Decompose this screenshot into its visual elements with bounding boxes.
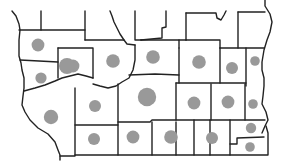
border [186,11,226,20]
border [230,137,264,144]
west-boundary [12,11,60,160]
symbol-r9 [250,56,260,66]
symbol-r14 [222,96,235,109]
symbol-r2 [35,72,46,83]
symbol-r10 [44,110,58,124]
border [110,11,124,40]
border [186,40,220,48]
symbol-r20 [246,123,256,133]
symbol-r21 [245,142,255,152]
border [141,11,166,40]
east-boundary [262,0,272,133]
symbol-r7 [59,58,75,74]
border [85,40,135,45]
symbol-r11 [89,100,101,112]
symbol-r19 [206,132,218,144]
symbol-r16 [88,133,100,145]
symbol-r12 [138,88,156,106]
symbol-r4 [106,54,120,68]
symbol-r8 [226,62,238,74]
symbol-r5 [146,50,160,64]
symbol-r17 [127,131,140,144]
border [129,74,179,75]
symbol-r13 [188,97,201,110]
symbol-r1 [32,39,45,52]
symbol-r18 [164,130,178,144]
county-map [0,0,283,163]
symbol-r15 [248,99,258,109]
border [141,40,179,48]
county-borders [12,0,272,160]
border [20,60,58,62]
proportional-symbols [32,39,260,152]
border [135,11,141,40]
symbol-r6 [192,55,206,69]
